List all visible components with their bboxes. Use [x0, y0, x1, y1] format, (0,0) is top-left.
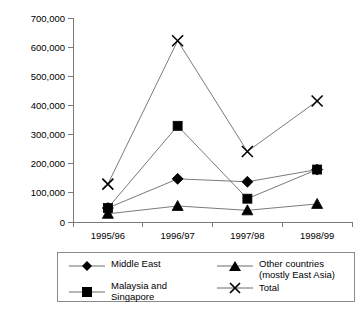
plot-area: 0100,000200,000300,000400,000500,000600,…	[0, 0, 361, 248]
data-point-marker	[172, 173, 183, 184]
data-point-marker	[242, 176, 253, 187]
data-point-marker	[242, 146, 253, 157]
y-axis-tick-label: 200,000	[31, 158, 65, 169]
triangle-marker-icon	[216, 259, 254, 273]
series-line	[108, 204, 317, 214]
data-point-marker	[102, 179, 113, 190]
data-point-marker	[312, 96, 323, 107]
x-marker-icon	[216, 281, 254, 295]
legend-item-total: Total	[206, 280, 354, 295]
x-axis-tick-label: 1995/96	[91, 230, 125, 241]
y-axis-tick-label: 700,000	[31, 13, 65, 24]
y-axis-tick-label: 400,000	[31, 100, 65, 111]
legend-item-other-countries: Other countries (mostly East Asia)	[206, 253, 354, 280]
data-point-marker	[312, 198, 323, 208]
legend-label-malaysia-singapore: Malaysia and Singapore	[111, 280, 206, 302]
series-line	[108, 170, 317, 208]
series-line	[108, 126, 317, 208]
y-axis-tick-label: 100,000	[31, 187, 65, 198]
y-axis-tick-label: 600,000	[31, 42, 65, 53]
legend-label-middle-east: Middle East	[111, 258, 161, 269]
data-point-marker	[173, 121, 182, 130]
y-axis-tick-label: 500,000	[31, 71, 65, 82]
data-point-marker	[103, 204, 112, 213]
chart-legend: Middle East Other countries (mostly East…	[57, 252, 355, 302]
legend-item-malaysia-singapore: Malaysia and Singapore	[58, 280, 206, 302]
data-point-marker	[243, 194, 252, 203]
square-marker-icon	[68, 285, 106, 299]
x-axis-tick-label: 1998/99	[300, 230, 334, 241]
data-point-marker	[313, 165, 322, 174]
x-axis-tick-label: 1996/97	[160, 230, 194, 241]
legend-label-other-countries: Other countries (mostly East Asia)	[259, 258, 335, 280]
legend-label-total: Total	[259, 282, 279, 293]
y-axis-tick-label: 300,000	[31, 129, 65, 140]
data-point-marker	[172, 35, 183, 46]
line-chart: 0100,000200,000300,000400,000500,000600,…	[0, 0, 361, 310]
data-point-marker	[172, 200, 183, 210]
legend-item-middle-east: Middle East	[58, 253, 206, 273]
y-axis-tick-label: 0	[60, 217, 65, 228]
plot-svg: 0100,000200,000300,000400,000500,000600,…	[0, 0, 361, 248]
diamond-marker-icon	[68, 259, 106, 273]
x-axis-tick-label: 1997/98	[230, 230, 264, 241]
